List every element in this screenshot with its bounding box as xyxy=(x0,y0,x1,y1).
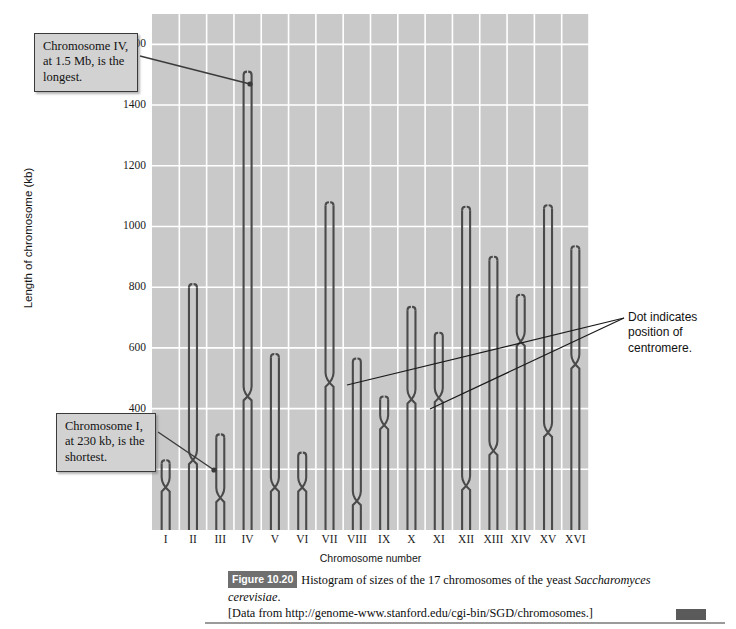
chromosome-bars xyxy=(152,14,589,530)
y-axis-tick-label: 1400 xyxy=(102,99,146,111)
chart-plot-area xyxy=(152,14,589,530)
caption-text-lead: Histogram of sizes of the 17 chromosomes… xyxy=(301,573,574,587)
y-axis-tick-label: 600 xyxy=(102,342,146,354)
x-axis-tick-label: VII xyxy=(322,533,338,545)
page-corner-marker xyxy=(676,609,706,620)
x-axis-tick-label: V xyxy=(271,533,279,545)
x-axis-tick-label: XII xyxy=(458,533,474,545)
x-axis-tick-label: IV xyxy=(242,533,254,545)
x-axis-tick-label: I xyxy=(164,533,168,545)
y-axis-tick-label: 1000 xyxy=(102,220,146,232)
annotation-centromere: Dot indicates position of centromere. xyxy=(628,310,732,356)
x-axis-tick-label: VIII xyxy=(347,533,367,545)
x-axis-tick-label: XV xyxy=(540,533,557,545)
x-axis-label: Chromosome number xyxy=(152,552,589,564)
y-axis-tick-label: 800 xyxy=(102,281,146,293)
caption-data-source: [Data from http://genome-www.stanford.ed… xyxy=(228,605,706,622)
x-axis-tick-label: IX xyxy=(378,533,390,545)
x-axis-tick-label: VI xyxy=(296,533,308,545)
x-axis-tick-label: II xyxy=(189,533,197,545)
x-axis-tick-label: XIV xyxy=(510,533,530,545)
footer-divider xyxy=(205,622,725,624)
figure-number-badge: Figure 10.20 xyxy=(228,571,297,588)
y-axis-tick-label: 1200 xyxy=(102,160,146,172)
x-axis-tick-label: XI xyxy=(433,533,445,545)
caption-text-tail: . xyxy=(277,590,280,604)
x-axis-tick-label: XVI xyxy=(565,533,585,545)
x-axis-tick-label: XIII xyxy=(484,533,504,545)
x-axis-ticks: IIIIIIIVVVIVIIVIIIIXXXIXIIXIIIXIVXVXVI xyxy=(152,533,589,551)
callout-shortest-chromosome: Chromosome I, at 230 kb, is the shortest… xyxy=(56,413,156,472)
x-axis-tick-label: X xyxy=(407,533,415,545)
callout-longest-chromosome: Chromosome IV, at 1.5 Mb, is the longest… xyxy=(34,33,138,92)
figure-page: 2004006008001000120014001600 Length of c… xyxy=(0,0,736,629)
x-axis-tick-label: III xyxy=(215,533,227,545)
y-axis-label: Length of chromosome (kb) xyxy=(22,158,34,318)
figure-caption: Figure 10.20Histogram of sizes of the 17… xyxy=(228,571,706,622)
